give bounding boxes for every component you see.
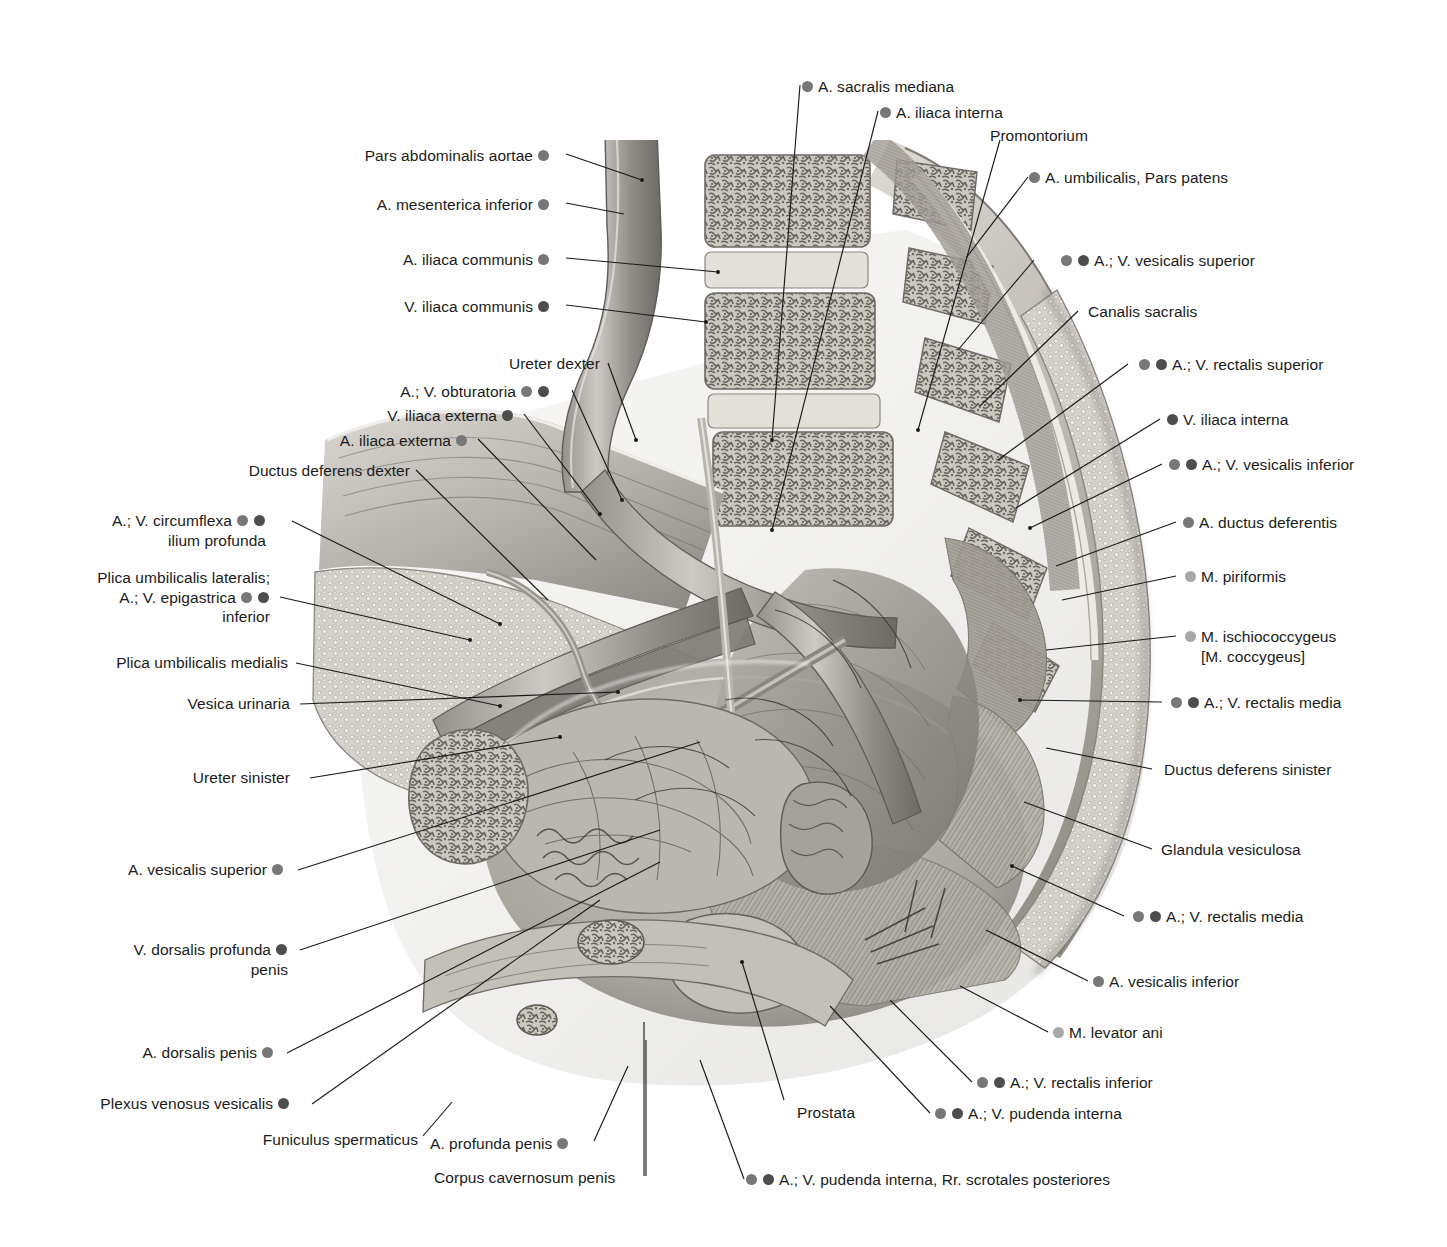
label-ductus-deferens-dexter: Ductus deferens dexter xyxy=(120,461,410,481)
muscle-dot xyxy=(1185,631,1196,642)
label-text: A. vesicalis inferior xyxy=(1109,973,1239,990)
label-text: M. levator ani xyxy=(1069,1024,1163,1041)
artery-dot xyxy=(746,1174,757,1185)
label-text-line1: M. ischiococcygeus xyxy=(1201,628,1336,645)
label-text: Ductus deferens dexter xyxy=(249,462,410,479)
label-a-v-vesicalis-superior: A.; V. vesicalis superior xyxy=(1060,251,1255,271)
label-text: A. profunda penis xyxy=(430,1135,552,1152)
vein-dot xyxy=(538,386,549,397)
label-text: A. iliaca interna xyxy=(896,104,1003,121)
label-canalis-sacralis: Canalis sacralis xyxy=(1088,302,1197,322)
label-text: A.; V. vesicalis superior xyxy=(1094,252,1255,269)
label-text-line2: A.; V. epigastrica xyxy=(119,589,236,606)
label-plica-umbilicalis-medialis: Plica umbilicalis medialis xyxy=(30,653,288,673)
label-text: A.; V. rectalis inferior xyxy=(1010,1074,1153,1091)
label-glandula-vesiculosa: Glandula vesiculosa xyxy=(1161,840,1301,860)
label-text-line1: Plica umbilicalis lateralis; xyxy=(97,569,270,586)
label-text: A. sacralis mediana xyxy=(818,78,954,95)
label-a-v-rectalis-media-lower: A.; V. rectalis media xyxy=(1132,907,1303,927)
label-v-dorsalis-profunda-penis: V. dorsalis profundapenis xyxy=(40,940,288,979)
label-text: Prostata xyxy=(797,1104,855,1121)
label-text: A. ductus deferentis xyxy=(1199,514,1337,531)
label-v-iliaca-interna: V. iliaca interna xyxy=(1166,410,1288,430)
anatomical-illustration xyxy=(305,140,1160,1090)
label-m-piriformis: M. piriformis xyxy=(1184,567,1286,587)
vein-dot xyxy=(502,410,513,421)
artery-dot xyxy=(1093,976,1104,987)
vein-dot xyxy=(254,515,265,526)
label-a-ductus-deferentis: A. ductus deferentis xyxy=(1182,513,1337,533)
artery-dot xyxy=(1061,255,1072,266)
label-text: A.; V. rectalis superior xyxy=(1172,356,1323,373)
vein-dot xyxy=(1186,459,1197,470)
artery-dot xyxy=(1139,359,1150,370)
artery-dot xyxy=(935,1108,946,1119)
vein-dot xyxy=(1188,697,1199,708)
label-text: A.; V. obturatoria xyxy=(400,383,516,400)
label-a-v-vesicalis-inferior: A.; V. vesicalis inferior xyxy=(1168,455,1354,475)
label-text-line2: [M. coccygeus] xyxy=(1201,648,1305,665)
vein-dot xyxy=(1167,414,1178,425)
label-a-dorsalis-penis: A. dorsalis penis xyxy=(40,1043,274,1063)
label-a-iliaca-communis: A. iliaca communis xyxy=(250,250,550,270)
artery-dot xyxy=(802,81,813,92)
vein-dot xyxy=(763,1174,774,1185)
label-a-iliaca-externa: A. iliaca externa xyxy=(200,431,468,451)
artery-dot xyxy=(977,1077,988,1088)
label-a-v-pudenda-interna: A.; V. pudenda interna xyxy=(934,1104,1122,1124)
artery-dot xyxy=(1183,517,1194,528)
label-funiculus-spermaticus: Funiculus spermaticus xyxy=(180,1130,418,1150)
label-a-iliaca-interna: A. iliaca interna xyxy=(879,103,1003,123)
label-prostata: Prostata xyxy=(797,1103,855,1123)
label-text-line2: ilium profunda xyxy=(168,532,266,549)
label-text-line3: inferior xyxy=(222,608,270,625)
label-text-line2: penis xyxy=(251,961,288,978)
artery-dot xyxy=(557,1138,568,1149)
label-text: A.; V. rectalis media xyxy=(1166,908,1303,925)
artery-dot xyxy=(538,254,549,265)
label-ureter-dexter: Ureter dexter xyxy=(300,354,600,374)
label-text: Plica umbilicalis medialis xyxy=(116,654,288,671)
label-text: V. iliaca communis xyxy=(404,298,533,315)
label-a-v-rectalis-media-upper: A.; V. rectalis media xyxy=(1170,693,1341,713)
label-text: A. mesenterica inferior xyxy=(377,196,533,213)
artery-dot xyxy=(456,435,467,446)
artery-dot xyxy=(237,515,248,526)
label-text: Glandula vesiculosa xyxy=(1161,841,1301,858)
label-text: Funiculus spermaticus xyxy=(263,1131,418,1148)
vein-dot xyxy=(278,1098,289,1109)
label-a-v-rectalis-inferior: A.; V. rectalis inferior xyxy=(976,1073,1153,1093)
label-text: A. iliaca communis xyxy=(403,251,533,268)
vein-dot xyxy=(952,1108,963,1119)
label-text: A.; V. pudenda interna xyxy=(968,1105,1122,1122)
artery-dot xyxy=(521,386,532,397)
label-text: A.; V. vesicalis inferior xyxy=(1202,456,1354,473)
muscle-dot xyxy=(1053,1027,1064,1038)
vein-dot xyxy=(1078,255,1089,266)
label-text: M. piriformis xyxy=(1201,568,1286,585)
label-text: Canalis sacralis xyxy=(1088,303,1197,320)
vein-dot xyxy=(1156,359,1167,370)
muscle-dot xyxy=(1185,571,1196,582)
label-text: A. dorsalis penis xyxy=(142,1044,257,1061)
label-a-v-circumflexa-ilium-profunda: A.; V. circumflexailium profunda xyxy=(40,511,266,550)
label-ductus-deferens-sinister: Ductus deferens sinister xyxy=(1164,760,1331,780)
artery-dot xyxy=(538,199,549,210)
label-text: A. iliaca externa xyxy=(340,432,451,449)
label-ureter-sinister: Ureter sinister xyxy=(90,768,290,788)
vein-dot xyxy=(1150,911,1161,922)
label-a-mesenterica-inferior: A. mesenterica inferior xyxy=(250,195,550,215)
label-a-vesicalis-inferior: A. vesicalis inferior xyxy=(1092,972,1239,992)
artery-dot xyxy=(262,1047,273,1058)
label-a-v-obturatoria: A.; V. obturatoria xyxy=(250,382,550,402)
label-promontorium: Promontorium xyxy=(990,126,1088,146)
label-plica-umbilicalis-lateralis: Plica umbilicalis lateralis;A.; V. epiga… xyxy=(20,568,270,627)
label-text: V. iliaca interna xyxy=(1183,411,1288,428)
artery-dot xyxy=(538,150,549,161)
label-corpus-cavernosum-penis: Corpus cavernosum penis xyxy=(434,1168,615,1188)
label-text: Corpus cavernosum penis xyxy=(434,1169,615,1186)
label-text: A.; V. pudenda interna, Rr. scrotales po… xyxy=(779,1171,1110,1188)
label-text: Plexus venosus vesicalis xyxy=(100,1095,273,1112)
label-a-sacralis-mediana: A. sacralis mediana xyxy=(801,77,954,97)
artery-dot xyxy=(1029,172,1040,183)
